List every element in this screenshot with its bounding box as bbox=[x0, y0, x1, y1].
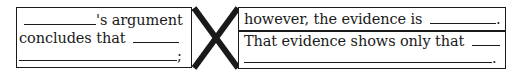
claim-line-1: 's argument bbox=[24, 12, 183, 29]
x-connector-icon bbox=[192, 5, 240, 71]
rebuttal-box: however, the evidence is . That evidence… bbox=[238, 7, 506, 69]
evidence-quality-section: however, the evidence is . bbox=[239, 8, 505, 32]
shows-blank-1[interactable] bbox=[472, 33, 500, 46]
concludes-label: concludes that bbox=[19, 30, 125, 46]
argument-label: 's argument bbox=[96, 12, 183, 28]
claim-line-3: ; bbox=[19, 48, 182, 65]
period: . bbox=[492, 50, 497, 66]
conclusion-blank-1[interactable] bbox=[133, 30, 179, 43]
evidence-label: however, the evidence is bbox=[244, 11, 422, 27]
conclusion-blank-2[interactable] bbox=[19, 48, 177, 61]
evidence-shows-section: That evidence shows only that . bbox=[239, 32, 505, 68]
shows-line-1: That evidence shows only that bbox=[244, 33, 500, 50]
semicolon: ; bbox=[177, 48, 182, 64]
shows-line-2: . bbox=[244, 50, 497, 67]
evidence-line: however, the evidence is . bbox=[244, 11, 500, 28]
shows-label: That evidence shows only that bbox=[244, 33, 464, 49]
claim-line-2: concludes that bbox=[19, 30, 179, 47]
author-blank[interactable] bbox=[24, 12, 96, 25]
shows-blank-2[interactable] bbox=[244, 50, 492, 63]
period: . bbox=[496, 11, 501, 27]
evidence-quality-blank[interactable] bbox=[430, 11, 496, 24]
claim-box: 's argument concludes that ; bbox=[16, 7, 192, 68]
